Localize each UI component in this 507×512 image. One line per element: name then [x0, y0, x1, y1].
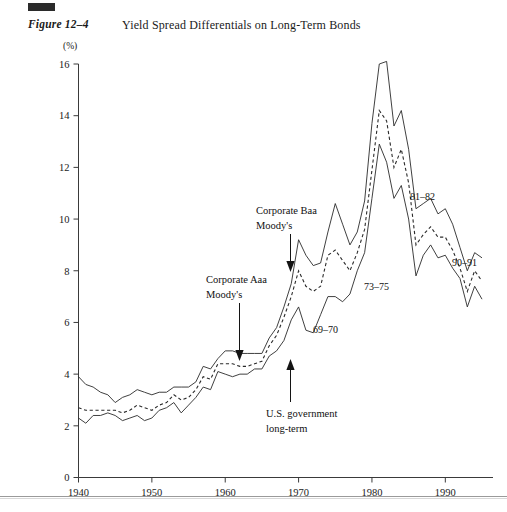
x-axis-ticks: 194019501960197019801990 — [68, 478, 456, 498]
y-tick-label: 14 — [59, 110, 70, 121]
annotation-us-government-line2: long-term — [266, 423, 307, 434]
annotation-era-73-75: 73–75 — [364, 281, 389, 292]
series-u-s-government-long-term — [79, 144, 483, 423]
annotation-corporate-baa-line2: Moody's — [256, 220, 292, 231]
y-tick-label: 0 — [64, 472, 69, 483]
y-tick-label: 12 — [59, 162, 70, 173]
footer-divider-shadow — [0, 498, 507, 499]
annotation-era-90-91: 90–91 — [452, 257, 477, 268]
y-tick-label: 8 — [64, 266, 69, 277]
annotation-labels: Corporate Baa Moody's Corporate Aaa Mood… — [206, 191, 477, 434]
annotation-corporate-aaa-line1: Corporate Aaa — [206, 274, 267, 285]
annotation-us-government-line1: U.S. government — [266, 408, 338, 419]
arrow-down-icon-aaa — [235, 350, 243, 361]
y-tick-label: 2 — [64, 421, 69, 432]
chart-series-group — [79, 61, 483, 423]
annotation-era-81-82: 81–82 — [410, 191, 435, 202]
footer-divider — [0, 496, 507, 497]
y-tick-label: 6 — [64, 317, 69, 328]
series-corporate-baa-moody-s — [79, 61, 483, 402]
y-tick-label: 10 — [59, 214, 70, 225]
chart-canvas: (%) 0246810121416 1940195019601970198019… — [0, 0, 507, 512]
y-tick-label: 4 — [64, 369, 70, 380]
annotation-era-69-70: 69–70 — [313, 324, 338, 335]
y-axis-ticks: 0246810121416 — [59, 59, 79, 484]
annotation-leaders — [235, 234, 294, 402]
annotation-corporate-aaa-line2: Moody's — [206, 289, 242, 300]
y-tick-label: 16 — [59, 59, 70, 70]
y-axis-unit-label: (%) — [63, 41, 77, 52]
arrow-up-icon-govt — [286, 359, 294, 370]
annotation-corporate-baa-line1: Corporate Baa — [256, 205, 317, 216]
